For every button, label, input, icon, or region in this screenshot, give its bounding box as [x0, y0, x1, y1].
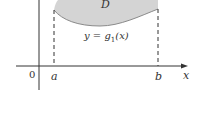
b-label: b: [155, 71, 162, 82]
a-label: a: [51, 71, 58, 82]
label-eq: =: [90, 30, 105, 41]
region-label: D: [101, 0, 110, 10]
diagram-canvas: [0, 0, 205, 120]
origin-label: 0: [29, 70, 35, 80]
label-arg: (x): [115, 30, 128, 41]
x-axis-arrow-icon: [181, 64, 188, 69]
x-axis-label: x: [183, 70, 189, 81]
lower-curve-label: y = g1(x): [84, 31, 129, 44]
